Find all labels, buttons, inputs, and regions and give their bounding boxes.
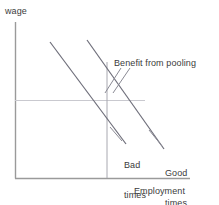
wage-employment-diagram: wage Employment Benefit from pooling Bad… [0, 0, 219, 205]
y-axis-label: wage [5, 6, 27, 16]
good-times-leader-line [149, 130, 162, 146]
bad-times-leader-line [110, 127, 122, 141]
bad-times-label-line2: times [124, 190, 146, 200]
good-times-label: Good times [165, 148, 187, 205]
bad-times-label-line1: Bad [124, 160, 146, 170]
good-times-label-line2: times [165, 198, 187, 205]
benefit-from-pooling-label: Benefit from pooling [114, 58, 196, 68]
bad-times-label: Bad times [124, 140, 146, 205]
good-times-label-line1: Good [165, 168, 187, 178]
good-times-curve [87, 40, 164, 149]
